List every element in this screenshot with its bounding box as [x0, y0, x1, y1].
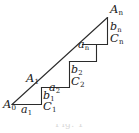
label-side-an: an — [78, 39, 89, 50]
label-vertex-A1: A1 — [26, 73, 39, 85]
label-side-a2: a2 — [49, 82, 60, 93]
label-side-a1: a1 — [21, 104, 32, 115]
label-vertex-Cn: Cn — [110, 33, 123, 45]
figure-caption-remnant: Fig. 1 — [0, 124, 139, 133]
geometry-figure: A0 a1 b1 C1 A1 a2 b2 C2 an An bn Cn Fig.… — [0, 0, 139, 133]
label-vertex-An: An — [110, 4, 123, 16]
label-vertex-C2: C2 — [71, 76, 84, 88]
label-vertex-C1: C1 — [43, 101, 56, 113]
label-vertex-A0: A0 — [3, 99, 16, 111]
